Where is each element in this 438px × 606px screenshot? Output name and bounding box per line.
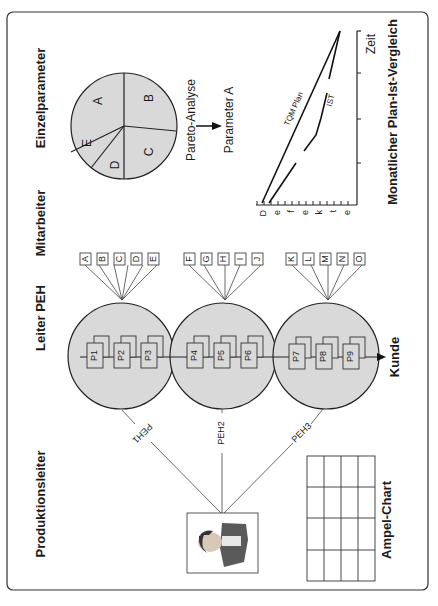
chart-title: Monatlicher Plan-Ist-Vergleich: [385, 19, 400, 205]
arrow-icon: [377, 353, 386, 361]
employee-label: I: [235, 258, 245, 261]
pie-slice-label: B: [142, 94, 156, 102]
customer-label: Kunde: [387, 337, 402, 377]
employee-label: J: [252, 257, 262, 262]
employee-label: F: [184, 256, 194, 262]
pie-slice-label: A: [91, 97, 105, 105]
axis-letter: D: [258, 210, 268, 217]
ist-line: [329, 31, 340, 79]
heading-einzelparameter: Einzelparameter: [33, 48, 48, 148]
employee-label: A: [80, 256, 90, 262]
production-manager-photo: [187, 513, 258, 573]
axis-letter: f: [286, 210, 296, 213]
process-label: P7: [291, 351, 301, 362]
pie-slice-label: D: [108, 160, 122, 169]
plan-ist-chart: TQM Plan IST D e f e k t e Zeit: [256, 31, 378, 217]
pie-slice-label: E: [80, 139, 94, 147]
employee-group-2: [189, 265, 261, 300]
axis-letter: e: [342, 210, 352, 215]
employee-label: M: [320, 255, 330, 263]
peh1-label: PEH1: [131, 422, 155, 446]
axis-letter: k: [314, 210, 324, 215]
employee-label: D: [131, 255, 141, 262]
ampel-chart-grid: [307, 456, 375, 581]
process-label: P6: [243, 350, 253, 361]
ampel-chart-label: Ampel-Chart: [379, 480, 394, 559]
heading-produktionsleiter: Produktionsleiter: [33, 451, 48, 558]
axis-letter: e: [272, 210, 282, 215]
employee-label: N: [337, 256, 347, 263]
process-label: P4: [189, 350, 199, 361]
tqm-plan-label: TQM Plan: [282, 91, 305, 128]
axis-letter: e: [300, 210, 310, 215]
employee-label: L: [303, 256, 313, 261]
process-label: P1: [89, 350, 99, 361]
employee-label: K: [286, 256, 296, 262]
employee-label: C: [114, 255, 124, 262]
parameter-a-label: Parameter A: [222, 87, 236, 154]
arrow-icon: [196, 122, 222, 130]
process-label: P9: [345, 351, 355, 362]
diagram-canvas: Einzelparameter Mitarbeiter Leiter PEH P…: [0, 0, 438, 606]
employee-label: H: [218, 256, 228, 263]
employee-label: O: [354, 255, 364, 262]
peh3-label: PEH3: [290, 421, 314, 445]
process-label: P8: [318, 351, 328, 362]
peh2-label: PEH2: [216, 421, 226, 445]
process-label: P2: [116, 350, 126, 361]
pie-slice-label: C: [142, 147, 156, 156]
pie-chart: A B C D E: [71, 73, 177, 179]
employee-group-3: [292, 265, 362, 300]
axis-letter: t: [328, 210, 338, 213]
ist-line: [269, 163, 296, 203]
employee-label: B: [97, 256, 107, 262]
employee-group-1: [85, 265, 157, 300]
process-label: P5: [216, 350, 226, 361]
heading-mitarbeiter: Mitarbeiter: [33, 190, 48, 256]
employee-label: G: [201, 255, 211, 262]
pareto-label: Pareto-Analyse: [184, 79, 198, 161]
ist-label: IST: [325, 93, 337, 107]
time-axis-label: Zeit: [364, 33, 378, 54]
process-label: P3: [143, 350, 153, 361]
employee-label: E: [148, 256, 158, 262]
tqm-plan-line: [262, 31, 340, 203]
heading-leiter-peh: Leiter PEH: [33, 285, 48, 351]
